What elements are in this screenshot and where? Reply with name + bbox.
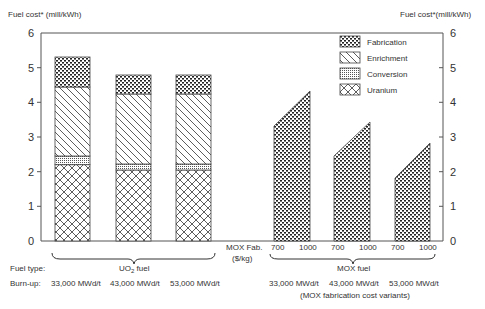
plot-frame: [41, 33, 443, 241]
y-tick-label: 2: [28, 166, 34, 178]
uranium-segment: [176, 170, 211, 241]
burn-up-label: Burn-up:: [10, 279, 41, 288]
conversion-segment: [176, 164, 211, 170]
y-tick-label: 3: [450, 131, 456, 143]
y-tick-label: 0: [28, 235, 34, 247]
enrichment-segment: [55, 87, 90, 156]
y-tick-label: 2: [450, 166, 456, 178]
legend: Fabrication Enrichment Conversion Uraniu…: [340, 36, 408, 95]
mox-bar-43000: [334, 122, 370, 241]
mox-burnup-33000: 33,000 MWd/t: [269, 279, 320, 288]
y-tick-label: 4: [450, 96, 456, 108]
legend-conversion-label: Conversion: [367, 70, 407, 79]
left-y-axis: 0 1 2 3 4 5 6: [28, 27, 41, 247]
legend-uranium-label: Uranium: [367, 86, 398, 95]
y-tick-label: 1: [450, 200, 456, 212]
legend-enrichment-swatch: [340, 52, 360, 63]
y-tick-label: 3: [28, 131, 34, 143]
uranium-segment: [55, 165, 90, 241]
y-tick-label: 1: [28, 200, 34, 212]
uo2-burnup-53000: 53,000 MWd/t: [170, 279, 221, 288]
mox-bar-53000: [395, 143, 430, 241]
uo2-bar-53000: [176, 75, 211, 241]
mox-burnup-53000: 53,000 MWd/t: [389, 279, 440, 288]
right-y-axis: 0 1 2 3 4 5 6: [439, 27, 456, 247]
y-tick-label: 6: [28, 27, 34, 39]
y-tick-label: 5: [28, 62, 34, 74]
mox-fab-unit: ($/kg): [232, 254, 253, 263]
mox-burnup-43000: 43,000 MWd/t: [329, 279, 380, 288]
uo2-burnup-33000: 33,000 MWd/t: [51, 279, 102, 288]
fuel-type-label: Fuel type:: [10, 264, 45, 273]
legend-fabrication-label: Fabrication: [367, 38, 407, 47]
mox-bar-33000: [274, 91, 310, 241]
y-tick-label: 4: [28, 96, 34, 108]
legend-fabrication-swatch: [340, 36, 360, 47]
fuel-cost-chart: Fuel cost* (mill/kWh) Fuel cost*(mill/kW…: [0, 0, 485, 309]
right-axis-title: Fuel cost*(mill/kWh): [400, 10, 471, 19]
fab-cost-tick: 700: [271, 243, 285, 252]
fabrication-segment: [176, 75, 211, 94]
fab-cost-tick: 700: [391, 243, 405, 252]
uo2-bar-43000: [116, 75, 151, 241]
left-axis-title: Fuel cost* (mill/kWh): [8, 10, 82, 19]
fab-cost-tick: 700: [331, 243, 345, 252]
fabrication-segment: [116, 75, 151, 94]
conversion-segment: [116, 164, 151, 170]
y-tick-label: 5: [450, 62, 456, 74]
uo2-burnup-43000: 43,000 MWd/t: [110, 279, 161, 288]
conversion-segment: [55, 156, 90, 165]
fabrication-segment: [55, 57, 90, 87]
fab-cost-tick: 1000: [419, 243, 437, 252]
uo2-brace: [52, 253, 215, 264]
legend-uranium-swatch: [340, 84, 360, 95]
enrichment-segment: [176, 94, 211, 164]
fab-cost-tick: 1000: [299, 243, 317, 252]
y-tick-label: 0: [450, 235, 456, 247]
enrichment-segment: [116, 94, 151, 164]
legend-conversion-swatch: [340, 68, 360, 79]
uranium-segment: [116, 170, 151, 241]
mox-fab-label: MOX Fab.: [226, 243, 262, 252]
fab-cost-tick: 1000: [359, 243, 377, 252]
mox-fuel-label: MOX fuel: [337, 264, 371, 273]
legend-enrichment-label: Enrichment: [367, 54, 408, 63]
y-tick-label: 6: [450, 27, 456, 39]
mox-note: (MOX fabrication cost variants): [300, 291, 410, 300]
mox-brace: [270, 254, 435, 264]
uo2-fuel-label: UO2 fuel: [119, 264, 150, 274]
uo2-bar-33000: [55, 57, 90, 241]
